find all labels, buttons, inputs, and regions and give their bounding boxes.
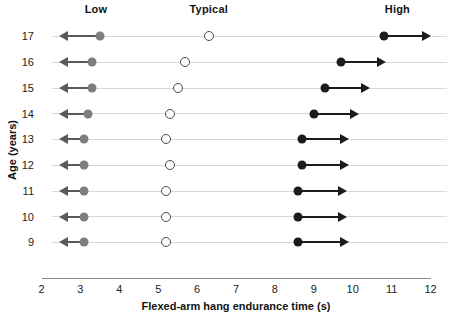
row-gridline	[52, 139, 448, 140]
low-marker	[80, 212, 89, 221]
high-range-line	[298, 216, 339, 218]
typical-marker	[161, 134, 171, 144]
low-marker	[80, 187, 89, 196]
y-axis-tick-label: 14	[10, 108, 34, 120]
row-gridline	[52, 88, 448, 89]
flexed-arm-hang-chart: LowTypicalHigh17161514131211109 23456789…	[0, 0, 452, 326]
high-marker	[294, 187, 303, 196]
high-marker	[298, 161, 307, 170]
band-label-low: Low	[85, 3, 108, 15]
band-label-high: High	[385, 3, 410, 15]
high-range-line	[298, 190, 339, 192]
high-arrowhead-icon	[338, 186, 347, 196]
typical-marker	[161, 212, 171, 222]
high-arrowhead-icon	[340, 134, 349, 144]
x-axis-tick-label: 7	[233, 283, 239, 295]
row-gridline	[52, 242, 448, 243]
y-axis-tick-label: 15	[10, 82, 34, 94]
low-marker	[84, 109, 93, 118]
x-axis-tick-label: 3	[77, 283, 83, 295]
row-gridline	[52, 62, 448, 63]
x-axis-tick-label: 8	[272, 283, 278, 295]
low-arrowhead-icon	[59, 212, 68, 222]
x-axis-tick-label: 5	[155, 283, 161, 295]
high-marker	[379, 32, 388, 41]
typical-marker	[165, 109, 175, 119]
low-marker	[88, 58, 97, 67]
typical-marker	[173, 83, 183, 93]
low-marker	[80, 238, 89, 247]
high-range-line	[341, 61, 378, 63]
x-axis-tick-label: 4	[116, 283, 122, 295]
x-axis-tick-label: 9	[311, 283, 317, 295]
y-axis-tick-label: 10	[10, 211, 34, 223]
x-axis-title: Flexed-arm hang endurance time (s)	[142, 300, 331, 312]
typical-marker	[161, 186, 171, 196]
high-arrowhead-icon	[338, 212, 347, 222]
low-arrowhead-icon	[59, 160, 68, 170]
y-axis-tick-label: 16	[10, 56, 34, 68]
y-axis-tick-label: 17	[10, 30, 34, 42]
high-arrowhead-icon	[361, 83, 370, 93]
high-marker	[337, 58, 346, 67]
low-marker	[95, 32, 104, 41]
low-arrowhead-icon	[59, 83, 68, 93]
low-marker	[80, 161, 89, 170]
y-axis-title: Age (years)	[6, 120, 18, 180]
x-axis-tick-label: 6	[194, 283, 200, 295]
high-marker	[294, 212, 303, 221]
x-axis-line	[42, 278, 431, 279]
row-gridline	[52, 165, 448, 166]
x-axis-tick-label: 2	[38, 283, 44, 295]
low-arrowhead-icon	[59, 186, 68, 196]
low-marker	[88, 84, 97, 93]
typical-marker	[161, 237, 171, 247]
y-axis-tick-label: 9	[10, 236, 34, 248]
typical-marker	[204, 31, 214, 41]
high-arrowhead-icon	[422, 31, 431, 41]
row-gridline	[52, 191, 448, 192]
row-gridline	[52, 216, 448, 217]
x-axis-tick-label: 11	[386, 283, 397, 295]
row-gridline	[52, 113, 448, 114]
high-range-line	[314, 113, 351, 115]
low-arrowhead-icon	[59, 31, 68, 41]
typical-marker	[180, 57, 190, 67]
high-range-line	[298, 241, 341, 243]
high-arrowhead-icon	[340, 237, 349, 247]
band-label-typical: Typical	[190, 3, 229, 15]
x-axis-tick-label: 10	[347, 283, 359, 295]
typical-marker	[165, 160, 175, 170]
low-arrowhead-icon	[59, 134, 68, 144]
low-arrowhead-icon	[59, 237, 68, 247]
high-range-line	[302, 164, 341, 166]
high-arrowhead-icon	[377, 57, 386, 67]
x-axis-tick-label: 12	[424, 283, 436, 295]
high-range-line	[384, 35, 423, 37]
high-arrowhead-icon	[340, 160, 349, 170]
high-marker	[309, 109, 318, 118]
low-marker	[80, 135, 89, 144]
high-marker	[294, 238, 303, 247]
high-range-line	[302, 138, 341, 140]
low-arrowhead-icon	[59, 109, 68, 119]
high-range-line	[325, 87, 362, 89]
high-arrowhead-icon	[350, 109, 359, 119]
high-marker	[298, 135, 307, 144]
high-marker	[321, 84, 330, 93]
y-axis-tick-label: 11	[10, 185, 34, 197]
low-arrowhead-icon	[59, 57, 68, 67]
